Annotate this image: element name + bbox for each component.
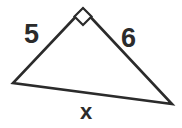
side-label-right-leg: 6 bbox=[121, 25, 136, 52]
side-label-hypotenuse: x bbox=[80, 101, 92, 123]
side-label-left-leg: 5 bbox=[24, 21, 39, 48]
geometry-figure-canvas: 5 6 x bbox=[0, 0, 182, 128]
